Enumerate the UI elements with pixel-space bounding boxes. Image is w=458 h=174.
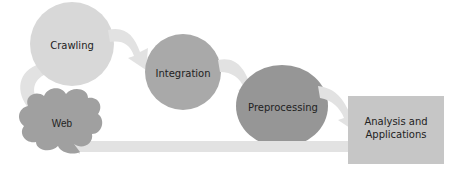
- node-crawling-label: Crawling: [50, 40, 94, 52]
- node-analysis-label-line1: Analysis and: [364, 116, 427, 128]
- pipeline-diagram: Crawling Integration Preprocessing Analy…: [0, 0, 458, 174]
- node-analysis-label-line2: Applications: [365, 129, 426, 141]
- node-integration-label: Integration: [155, 68, 210, 80]
- diagram-graphics: [0, 0, 458, 174]
- arrow-crawling-to-integration: [108, 29, 148, 70]
- node-preprocessing-label: Preprocessing: [248, 102, 318, 114]
- node-web-label: Web: [52, 118, 72, 130]
